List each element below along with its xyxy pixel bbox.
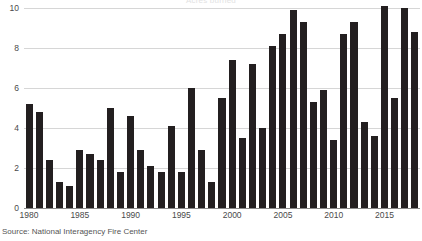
- bar: [158, 172, 165, 208]
- bar: [371, 136, 378, 208]
- bar: [229, 60, 236, 208]
- bar: [249, 64, 256, 208]
- x-axis-tick-label: 2005: [273, 209, 292, 221]
- bar: [411, 32, 418, 208]
- bar: [26, 104, 33, 208]
- bar: [330, 140, 337, 208]
- bar: [391, 98, 398, 208]
- bar: [198, 150, 205, 208]
- bar: [401, 8, 408, 208]
- bar: [310, 102, 317, 208]
- bar: [46, 160, 53, 208]
- bar: [340, 34, 347, 208]
- x-axis-tick-label: 1995: [172, 209, 191, 221]
- bar: [76, 150, 83, 208]
- bar: [36, 112, 43, 208]
- bar: [188, 88, 195, 208]
- bar: [178, 172, 185, 208]
- bar: [168, 126, 175, 208]
- bar: [117, 172, 124, 208]
- y-axis-tick-label: 4: [14, 124, 19, 133]
- bar: [350, 22, 357, 208]
- y-axis-tick-label: 2: [14, 164, 19, 173]
- bar: [259, 128, 266, 208]
- plot-area: 0246810: [24, 8, 420, 208]
- y-axis-tick-label: 8: [14, 44, 19, 53]
- bar: [269, 46, 276, 208]
- bar: [56, 182, 63, 208]
- bar: [86, 154, 93, 208]
- y-axis-tick-label: 10: [10, 4, 19, 13]
- bar: [320, 90, 327, 208]
- x-axis-tick-label: 2015: [375, 209, 394, 221]
- bar: [137, 150, 144, 208]
- bar: [66, 186, 73, 208]
- bar: [208, 182, 215, 208]
- bar: [279, 34, 286, 208]
- x-axis-tick-label: 2000: [223, 209, 242, 221]
- y-axis-tick-label: 6: [14, 84, 19, 93]
- chart-figure: Acres burned 0246810 1980198519901995200…: [0, 0, 422, 241]
- x-axis-tick-label: 1990: [121, 209, 140, 221]
- x-axis-tick-label: 1980: [20, 209, 39, 221]
- chart-title: Acres burned: [0, 0, 422, 3]
- x-axis: 19801985199019952000200520102015: [24, 209, 420, 223]
- bar-series: [24, 8, 420, 208]
- bar: [147, 166, 154, 208]
- bar: [127, 116, 134, 208]
- bar: [290, 10, 297, 208]
- bar: [97, 160, 104, 208]
- bar: [107, 108, 114, 208]
- source-note: Source: National Interagency Fire Center: [2, 226, 147, 237]
- y-axis-tick-label: 0: [14, 204, 19, 213]
- bar: [239, 138, 246, 208]
- bar: [300, 22, 307, 208]
- x-axis-tick-label: 1985: [70, 209, 89, 221]
- bar: [381, 6, 388, 208]
- bar: [218, 98, 225, 208]
- x-axis-tick-label: 2010: [324, 209, 343, 221]
- bar: [361, 122, 368, 208]
